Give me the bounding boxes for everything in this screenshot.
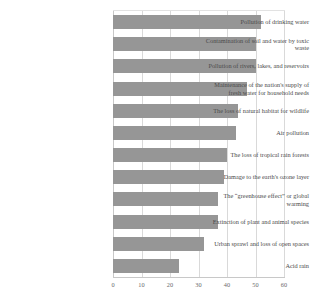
- category-label: Pollution of rivers, lakes, and reservoi…: [205, 62, 313, 70]
- x-tick-label: 60: [274, 281, 294, 289]
- category-label: Air pollution: [205, 129, 313, 137]
- x-tick-label: 40: [217, 281, 237, 289]
- category-label: Extinction of plant and animal species: [205, 218, 313, 226]
- x-axis-line: [113, 277, 285, 278]
- x-tick-label: 10: [132, 281, 152, 289]
- bar: [113, 215, 218, 229]
- bar-row: [113, 259, 179, 273]
- category-label: Maintenance of the nation's supply of fr…: [205, 81, 313, 96]
- x-tick-label: 50: [246, 281, 266, 289]
- bar-chart: 0102030405060Pollution of drinking water…: [0, 0, 313, 300]
- bar: [113, 192, 218, 206]
- category-label: The loss of natural habitat for wildlife: [205, 107, 313, 115]
- category-label: The “greenhouse effect” or global warmin…: [205, 192, 313, 207]
- category-label: Contamination of soil and water by toxic…: [205, 37, 313, 52]
- bar-row: [113, 215, 218, 229]
- bar-row: [113, 192, 218, 206]
- category-label: Damage to the earth's ozone layer: [205, 173, 313, 181]
- x-tick-label: 20: [160, 281, 180, 289]
- category-label: Acid rain: [205, 262, 313, 270]
- bar: [113, 237, 204, 251]
- category-label: Pollution of drinking water: [205, 18, 313, 26]
- category-label: The loss of tropical rain forests: [205, 151, 313, 159]
- category-label: Urban sprawl and loss of open spaces: [205, 240, 313, 248]
- bar-row: [113, 237, 204, 251]
- x-tick-label: 0: [103, 281, 123, 289]
- bar: [113, 259, 179, 273]
- x-tick-label: 30: [189, 281, 209, 289]
